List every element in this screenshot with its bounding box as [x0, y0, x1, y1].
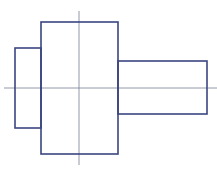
shaft-drawing — [0, 0, 217, 176]
right-shaft-outline — [118, 61, 207, 114]
drawing-canvas: stepped shaft front view — [0, 0, 217, 176]
